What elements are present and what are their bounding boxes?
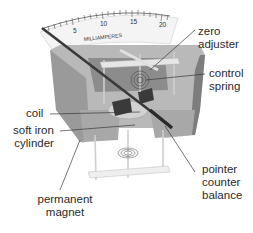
label-permanent-magnet: permanent magnet xyxy=(34,193,96,219)
label-control-spring: control spring xyxy=(209,67,244,93)
scale-tick-label: 15 xyxy=(130,18,138,25)
lower-bridge xyxy=(88,166,170,178)
scale-tick-label: 10 xyxy=(100,20,108,27)
label-zero-adjuster: zero adjuster xyxy=(198,25,239,51)
label-pointer-counter-balance: pointer counter balance xyxy=(202,163,242,202)
scale-tick-label: 5 xyxy=(73,27,77,34)
scale-tick-label: 20 xyxy=(159,21,167,28)
label-soft-iron-cylinder: soft iron cylinder xyxy=(13,124,54,150)
galvanometer-diagram: 5 10 15 20 MILLIAMPERES zero adjuster co… xyxy=(0,0,253,233)
label-coil: coil xyxy=(26,107,43,120)
scale-plate xyxy=(40,10,178,50)
